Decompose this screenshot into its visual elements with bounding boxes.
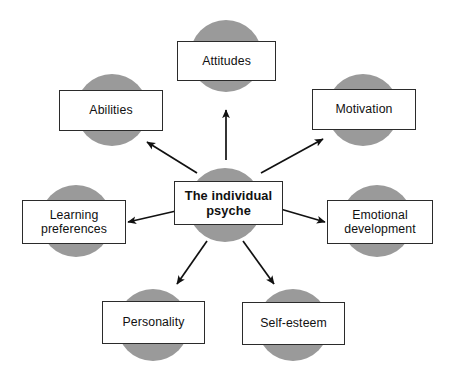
node-box-motivation[interactable]: Motivation <box>312 89 416 130</box>
node-box-abilities[interactable]: Abilities <box>59 90 163 131</box>
node-box-emotional-development-label: Emotional development <box>344 208 416 237</box>
node-box-self-esteem-label: Self-esteem <box>260 316 327 331</box>
node-box-abilities-label: Abilities <box>89 103 132 118</box>
node-box-emotional-development[interactable]: Emotional development <box>327 200 433 244</box>
center-node-box-label: The individual psyche <box>185 188 272 219</box>
node-box-self-esteem[interactable]: Self-esteem <box>242 302 345 345</box>
arrow-center-to-self-esteem <box>243 241 274 284</box>
node-box-personality-label: Personality <box>123 315 185 330</box>
arrow-center-to-abilities <box>147 142 197 173</box>
node-box-personality[interactable]: Personality <box>102 301 205 344</box>
arrow-center-to-motivation <box>261 139 323 173</box>
node-box-attitudes-label: Attitudes <box>202 54 251 69</box>
node-box-learning-preferences[interactable]: Learning preferences <box>22 200 126 244</box>
diagram-canvas: The individual psycheAttitudesAbilitiesM… <box>0 0 450 382</box>
node-box-motivation-label: Motivation <box>335 102 392 117</box>
arrow-center-to-emotional-development <box>277 208 325 222</box>
arrow-center-to-personality <box>177 241 207 284</box>
node-box-learning-preferences-label: Learning preferences <box>41 208 107 237</box>
center-node-box[interactable]: The individual psyche <box>174 181 283 225</box>
node-box-attitudes[interactable]: Attitudes <box>177 41 276 81</box>
